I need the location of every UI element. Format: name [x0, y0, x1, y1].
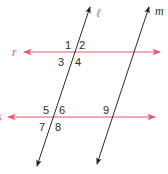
line-l: [37, 7, 90, 166]
line-l-label: ℓ: [96, 6, 101, 20]
line-s-label: s: [0, 110, 2, 124]
angle-5-label: 5: [43, 104, 49, 116]
angle-2-label: 2: [79, 39, 85, 51]
line-m: [97, 7, 149, 164]
line-m-label: m: [155, 4, 164, 18]
angle-3-label: 3: [58, 56, 64, 68]
angle-9-label: 9: [103, 104, 109, 116]
angle-1-label: 1: [65, 39, 71, 51]
angle-8-label: 8: [55, 121, 61, 133]
angle-4-label: 4: [75, 56, 81, 68]
angle-7-label: 7: [39, 121, 45, 133]
parallel-lines-diagram: r s ℓ m 1 2 3 4 5 6 7 8 9: [0, 0, 168, 174]
line-r-label: r: [12, 45, 17, 59]
angle-6-label: 6: [59, 104, 65, 116]
